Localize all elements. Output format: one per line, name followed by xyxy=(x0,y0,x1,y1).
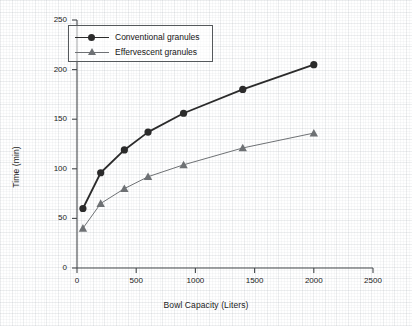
x-tick-label: 1000 xyxy=(175,276,215,285)
x-tick-label: 500 xyxy=(116,276,156,285)
legend-marker-circle-icon xyxy=(75,31,109,43)
y-tick-label: 100 xyxy=(33,164,67,173)
x-tick-label: 1500 xyxy=(235,276,275,285)
y-tick-label: 250 xyxy=(33,15,67,24)
data-point-circle xyxy=(180,110,187,117)
data-point-circle xyxy=(310,61,317,68)
legend-label-effervescent-granules: Effervescent granules xyxy=(115,47,197,57)
x-axis-title: Bowl Capacity (Liters) xyxy=(0,300,412,310)
y-tick-label: 150 xyxy=(33,114,67,123)
series-2 xyxy=(79,129,318,232)
series-line xyxy=(83,133,314,228)
data-point-triangle xyxy=(120,184,128,192)
data-point-circle xyxy=(121,146,128,153)
data-point-triangle xyxy=(144,173,152,181)
y-tick-label: 200 xyxy=(33,65,67,74)
data-point-circle xyxy=(97,169,104,176)
data-point-triangle xyxy=(96,199,104,207)
legend-marker-triangle-icon xyxy=(75,46,109,58)
data-point-circle xyxy=(144,128,151,135)
y-tick-label: 0 xyxy=(33,263,67,272)
legend-item-conventional-granules: Conventional granules xyxy=(75,30,200,44)
legend-item-effervescent-granules: Effervescent granules xyxy=(75,45,197,59)
y-axis-title: Time (min) xyxy=(11,137,21,197)
x-axis-ticks xyxy=(77,268,373,273)
x-tick-label: 2000 xyxy=(294,276,334,285)
data-point-triangle xyxy=(310,129,318,137)
x-tick-label: 0 xyxy=(57,276,97,285)
y-tick-label: 50 xyxy=(33,213,67,222)
x-tick-label: 2500 xyxy=(353,276,393,285)
data-series-layer xyxy=(79,61,318,232)
line-chart-figure: Conventional granules Effervescent granu… xyxy=(0,0,412,326)
data-point-circle xyxy=(79,205,86,212)
series-1 xyxy=(79,61,317,212)
chart-legend: Conventional granules Effervescent granu… xyxy=(68,25,213,62)
series-line xyxy=(83,65,314,209)
legend-label-conventional-granules: Conventional granules xyxy=(115,32,200,42)
data-point-triangle xyxy=(79,224,87,232)
data-point-circle xyxy=(239,86,246,93)
